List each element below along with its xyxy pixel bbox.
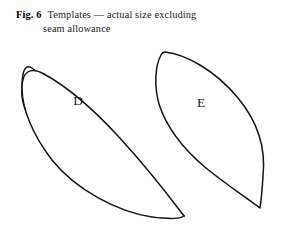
figure-container: Fig. 6Templates — actual size excluding … bbox=[0, 0, 284, 231]
templates-drawing bbox=[0, 0, 284, 231]
template-e-letter: E bbox=[191, 96, 211, 110]
template-e bbox=[156, 52, 264, 208]
template-d-letter: D bbox=[68, 94, 88, 108]
